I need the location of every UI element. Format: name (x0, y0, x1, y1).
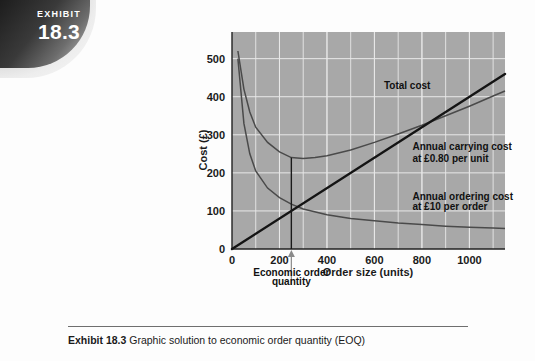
caption-body: Graphic solution to economic order quant… (129, 334, 365, 346)
annotation-total-cost: Total cost (384, 80, 431, 91)
y-axis-title: Cost (£) (197, 129, 209, 170)
annotation-carrying-cost-line2: at £0.80 per unit (412, 153, 489, 164)
y-tick-400: 400 (207, 91, 225, 103)
y-axis-tick-labels: 0100200300400500 (207, 53, 225, 255)
x-tick-400: 400 (318, 254, 336, 266)
y-tick-300: 300 (207, 129, 225, 141)
x-axis-title: Order size (units) (323, 266, 414, 278)
x-tick-600: 600 (365, 254, 383, 266)
eoq-chart: 02004006008001000 0100200300400500 Order… (0, 0, 535, 320)
caption-block: Exhibit 18.3 Graphic solution to economi… (68, 326, 468, 347)
chart-figure: 02004006008001000 0100200300400500 Order… (0, 0, 535, 320)
annotation-ordering-cost-line1: Annual ordering cost (412, 191, 513, 202)
caption-prefix: Exhibit 18.3 (68, 334, 126, 346)
x-tick-0: 0 (229, 254, 235, 266)
annotation-eoq-line2: quantity (272, 276, 311, 287)
y-tick-200: 200 (207, 167, 225, 179)
x-tick-1000: 1000 (457, 254, 481, 266)
x-axis-tick-labels: 02004006008001000 (229, 254, 482, 266)
y-tick-500: 500 (207, 53, 225, 65)
y-tick-100: 100 (207, 205, 225, 217)
y-tick-0: 0 (219, 243, 225, 255)
x-tick-800: 800 (413, 254, 431, 266)
x-tick-200: 200 (270, 254, 288, 266)
caption-divider (68, 326, 468, 327)
caption-text: Exhibit 18.3 Graphic solution to economi… (68, 333, 468, 347)
annotation-ordering-cost-line2: at £10 per order (412, 201, 487, 212)
annotation-carrying-cost-line1: Annual carrying cost (412, 141, 512, 152)
